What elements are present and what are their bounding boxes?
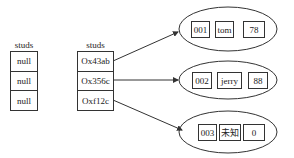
left-array: null null null xyxy=(10,51,38,111)
object-2-name: jerry xyxy=(217,72,242,89)
object-1-name: tom xyxy=(215,21,234,38)
ref-array-cell: Ox356c xyxy=(78,72,113,92)
arrow-3 xyxy=(113,100,182,130)
ref-array: Ox43ab Ox356c Oxf12c xyxy=(77,51,114,111)
ref-array-cell: Ox43ab xyxy=(78,52,113,72)
ref-array-cell: Oxf12c xyxy=(78,91,113,111)
left-array-cell: null xyxy=(11,52,37,72)
object-1-score: 78 xyxy=(243,21,265,38)
left-array-cell: null xyxy=(11,72,37,92)
ref-array-label: studs xyxy=(77,40,114,50)
left-array-cell: null xyxy=(11,91,37,111)
object-3-score: 0 xyxy=(243,124,265,141)
object-2-score: 88 xyxy=(248,72,268,89)
object-2-id: 002 xyxy=(192,72,212,89)
object-1-id: 001 xyxy=(191,21,210,38)
object-3-name: 未知 xyxy=(219,124,241,141)
object-3-id: 003 xyxy=(198,124,217,141)
arrow-1 xyxy=(113,32,178,61)
left-array-label: studs xyxy=(10,40,38,50)
